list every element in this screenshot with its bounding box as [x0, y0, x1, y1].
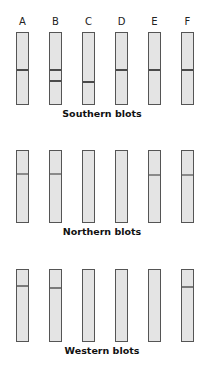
lane-label-f: F	[181, 17, 194, 27]
blot-lane	[115, 150, 128, 223]
panel-caption: Southern blots	[0, 108, 204, 119]
blot-lane	[181, 269, 194, 342]
blot-lane	[115, 269, 128, 342]
blot-band	[149, 174, 160, 176]
blot-band	[50, 287, 61, 289]
lane-label-a: A	[16, 17, 29, 27]
blot-lane	[148, 150, 161, 223]
blot-band	[182, 286, 193, 288]
lane-label-d: D	[115, 17, 128, 27]
lane-label-b: B	[49, 17, 62, 27]
blot-band	[116, 69, 127, 71]
blot-band	[50, 80, 61, 82]
panel-caption: Western blots	[0, 345, 204, 356]
blot-band	[149, 69, 160, 71]
blot-lane	[148, 269, 161, 342]
panel-caption: Northern blots	[0, 226, 204, 237]
blot-band	[83, 81, 94, 83]
lane-label-e: E	[148, 17, 161, 27]
blot-lane	[16, 32, 29, 105]
blot-band	[50, 69, 61, 71]
blot-lane	[49, 269, 62, 342]
blot-band	[17, 173, 28, 175]
lane-label-c: C	[82, 17, 95, 27]
blot-lane	[16, 269, 29, 342]
blot-lane	[148, 32, 161, 105]
blot-lane	[16, 150, 29, 223]
blot-lane	[49, 150, 62, 223]
blot-band	[182, 69, 193, 71]
blot-lane	[181, 32, 194, 105]
blot-band	[182, 174, 193, 176]
blot-lane	[82, 269, 95, 342]
blot-lane	[82, 150, 95, 223]
blot-lane	[49, 32, 62, 105]
blot-lane	[82, 32, 95, 105]
blot-band	[50, 173, 61, 175]
blot-lane	[181, 150, 194, 223]
blot-band	[17, 69, 28, 71]
blot-band	[17, 285, 28, 287]
blot-lane	[115, 32, 128, 105]
